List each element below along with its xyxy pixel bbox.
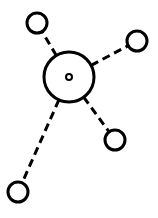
- edge-hub-node-top-right: [91, 46, 128, 66]
- hub: [44, 52, 94, 102]
- node-bottom-left: [8, 182, 28, 202]
- edge-hub-node-bottom-right: [84, 97, 109, 132]
- edge-hub-node-bottom-left: [22, 100, 59, 183]
- node-top-left: [27, 13, 47, 33]
- nodes: [8, 13, 147, 202]
- hub-center-dot: [66, 74, 72, 80]
- edge-hub-node-top-left: [42, 32, 56, 56]
- node-bottom-right: [105, 130, 125, 150]
- hub-spoke-diagram: [0, 0, 158, 218]
- node-top-right: [127, 31, 147, 51]
